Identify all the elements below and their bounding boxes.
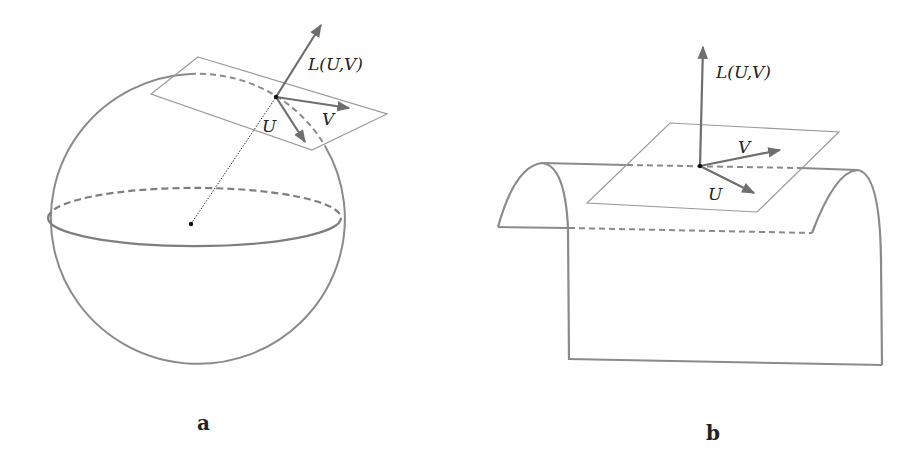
u-label-a: U (262, 116, 277, 136)
cylinder-ridge-left (542, 163, 627, 165)
equator-back (48, 188, 341, 218)
v-label-a: V (322, 109, 336, 129)
sphere-outline (51, 74, 345, 364)
caption-b: b (706, 421, 720, 445)
cylinder-bottom (568, 359, 882, 365)
sphere-outline-hidden (190, 74, 325, 146)
tangent-point-a (274, 95, 278, 99)
center-point (189, 222, 193, 226)
cylinder-left-arch (498, 163, 569, 359)
cylinder-left-base (498, 227, 569, 228)
cylinder-hidden-base (569, 228, 812, 233)
u-label-b: U (708, 184, 723, 204)
normal-label-b: L(U,V) (715, 62, 771, 82)
panel-a-sphere: L(U,V) U V a (48, 25, 387, 435)
cylinder-right-arch (812, 170, 882, 365)
v-label-b: V (738, 137, 752, 157)
normal-label-a: L(U,V) (307, 54, 363, 74)
cylinder-ridge-hidden (627, 165, 800, 168)
caption-a: a (197, 411, 210, 435)
normal-arrow-b (700, 47, 703, 166)
figure-canvas: L(U,V) U V a L(U,V) U V b (0, 0, 911, 459)
tangent-point-b (698, 164, 702, 168)
u-arrow-a (276, 97, 305, 142)
equator-front (48, 218, 341, 246)
cylinder-ridge-right (800, 168, 857, 170)
panel-b-cylinder: L(U,V) U V b (498, 47, 882, 445)
